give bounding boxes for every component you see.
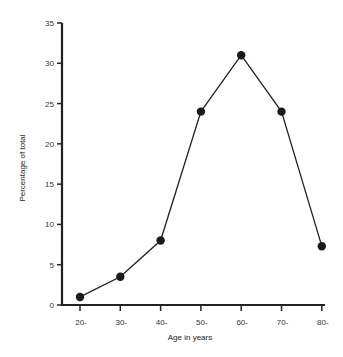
data-point-marker <box>116 273 124 281</box>
data-point-marker <box>318 242 326 250</box>
x-tick-label: 70- <box>277 318 289 327</box>
x-tick-label: 30- <box>116 318 128 327</box>
series-line <box>80 55 322 297</box>
x-tick-label: 40- <box>156 318 168 327</box>
x-axis: 20-30-40-50-60-70-80- <box>61 305 329 327</box>
x-axis-title: Age in years <box>168 333 212 342</box>
data-point-marker <box>156 236 164 244</box>
y-axis-title: Percentage of total <box>18 134 27 201</box>
y-tick-label: 10 <box>45 220 54 229</box>
data-point-marker <box>76 293 84 301</box>
y-tick-label: 15 <box>45 180 54 189</box>
y-tick-label: 25 <box>45 100 54 109</box>
data-point-marker <box>197 107 205 115</box>
data-point-marker <box>237 51 245 59</box>
x-tick-label: 60- <box>236 318 248 327</box>
data-point-marker <box>277 107 285 115</box>
y-axis: 05101520253035 <box>45 19 62 310</box>
y-tick-label: 30 <box>45 59 54 68</box>
y-tick-label: 20 <box>45 140 54 149</box>
data-series <box>76 51 326 301</box>
y-tick-label: 0 <box>50 301 55 310</box>
x-tick-label: 50- <box>196 318 208 327</box>
line-chart: 05101520253035 20-30-40-50-60-70-80- Age… <box>0 0 343 357</box>
y-tick-label: 35 <box>45 19 54 28</box>
y-tick-label: 5 <box>50 261 55 270</box>
x-tick-label: 80- <box>317 318 329 327</box>
x-tick-label: 20- <box>75 318 87 327</box>
